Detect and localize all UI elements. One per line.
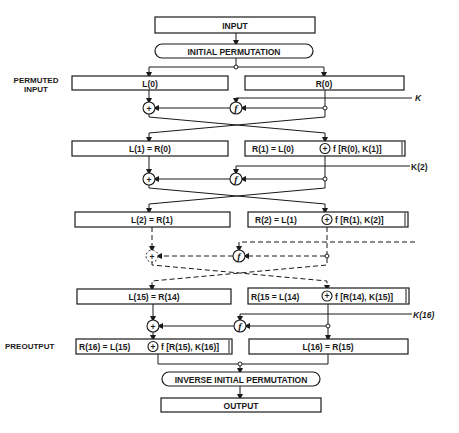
xor-symbol: + — [323, 144, 328, 154]
cross-line-xor-to-r1 — [149, 114, 325, 140]
l2-block: L(2) = R(1) — [75, 212, 230, 227]
xor-symbol: + — [325, 291, 330, 301]
merge-right — [242, 354, 328, 364]
f-function-2: f — [230, 173, 242, 185]
f-function-1: f — [230, 102, 242, 114]
l16-block: L(16) = R(15) — [249, 339, 408, 354]
f-function-16: f — [234, 320, 246, 332]
input-label: INPUT — [222, 21, 248, 31]
key-k1-line — [236, 98, 412, 101]
cross-line-r0-to-l1 — [149, 110, 325, 140]
junction-dot — [323, 177, 327, 181]
preoutput-label: PREOUTPUT — [5, 342, 54, 351]
cross-line-xor-to-r2 — [149, 185, 325, 211]
arrow-to-l0 — [149, 67, 234, 75]
xor-16: + — [147, 320, 159, 332]
r1-left-label: R(1) = L(0) — [252, 144, 294, 154]
key-k16-label: K(16) — [413, 310, 434, 320]
l15-label: L(15) = R(14) — [128, 292, 179, 302]
merge-left — [158, 354, 238, 364]
l1-block: L(1) = R(0) — [72, 141, 228, 156]
r15-left-label: R(15 = L(14) — [251, 292, 300, 302]
junction-dot — [234, 65, 238, 69]
r1-right-label: f [R(0), K(1)] — [333, 144, 382, 154]
output-label: OUTPUT — [224, 401, 260, 411]
inverse-initial-permutation-block: INVERSE INITIAL PERMUTATION — [162, 372, 320, 386]
r2-right-label: f [R(1), K(2)] — [335, 215, 384, 225]
xor-symbol: + — [151, 322, 156, 332]
xor-1: + — [143, 102, 155, 114]
r16-right-label: f [R(15), K(16)] — [161, 342, 219, 352]
r1-block: R(1) = L(0) + f [R(0), K(1)] — [245, 141, 405, 156]
initial-permutation-block: INITIAL PERMUTATION — [155, 44, 313, 58]
output-block: OUTPUT — [161, 398, 321, 412]
r2-left-label: R(2) = L(1) — [255, 215, 297, 225]
key-k2-label: K(2) — [411, 162, 428, 172]
arrow-to-r0 — [238, 67, 324, 75]
key-k1-label: K — [415, 93, 422, 103]
xor-symbol: + — [150, 252, 155, 262]
junction-dot — [326, 324, 330, 328]
xor-symbol: + — [147, 104, 152, 114]
xor-symbol: + — [147, 175, 152, 185]
des-flowchart: INPUT INITIAL PERMUTATION PERMUTED INPUT… — [0, 0, 459, 433]
l1-label: L(1) = R(0) — [129, 144, 171, 154]
initial-permutation-label: INITIAL PERMUTATION — [187, 47, 280, 57]
xor-symbol: + — [151, 342, 156, 352]
permuted-input-label: PERMUTED — [14, 76, 59, 85]
xor-2: + — [143, 173, 155, 185]
xor-symbol: + — [325, 215, 330, 225]
key-k16-line — [240, 314, 412, 319]
l0-label: L(0) — [142, 79, 158, 89]
r0-label: R(0) — [316, 79, 333, 89]
r16-block: R(16) = L(15) + f [R(15), K(16)] — [76, 339, 232, 354]
l15-block: L(15) = R(14) — [77, 289, 231, 304]
permuted-input-label-2: INPUT — [24, 85, 48, 94]
r15-block: R(15 = L(14) + f [R(14), K(15)] — [248, 288, 409, 304]
input-block: INPUT — [155, 17, 315, 33]
r16-left-label: R(16) = L(15) — [79, 342, 130, 352]
cross-line-r1-to-l2 — [149, 181, 325, 211]
l16-label: L(16) = R(15) — [302, 342, 353, 352]
r2-block: R(2) = L(1) + f [R(1), K(2)] — [248, 212, 408, 227]
r0-block: R(0) — [245, 76, 404, 90]
junction-dot — [323, 106, 327, 110]
key-k2-line — [236, 166, 410, 172]
omitted-rounds: f + — [146, 227, 415, 288]
inverse-ip-label: INVERSE INITIAL PERMUTATION — [175, 375, 308, 385]
r15-right-label: f [R(14), K(15)] — [335, 292, 393, 302]
l0-block: L(0) — [72, 76, 228, 90]
l2-label: L(2) = R(1) — [131, 215, 173, 225]
junction-dot — [238, 362, 242, 366]
